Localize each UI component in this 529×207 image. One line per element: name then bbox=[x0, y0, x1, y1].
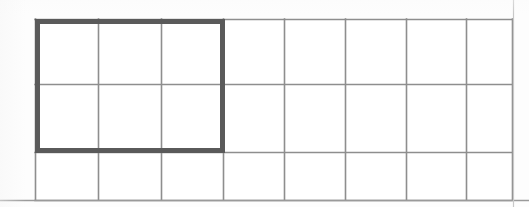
grid-cell-r2-c8 bbox=[466, 84, 512, 152]
grid-cells bbox=[35, 19, 512, 200]
grid-diagram-canvas bbox=[0, 0, 529, 207]
grid-cell-r1-c1 bbox=[35, 19, 98, 84]
grid-cell-r2-c3 bbox=[161, 84, 223, 152]
grid-figure: Rectangular grid with shaded-outline reg… bbox=[0, 0, 529, 207]
grid-cell-r2-c1 bbox=[35, 84, 98, 152]
grid-cell-r1-c6 bbox=[345, 19, 406, 84]
grid-cell-r3-c4 bbox=[223, 152, 284, 200]
grid-cell-r1-c2 bbox=[98, 19, 161, 84]
grid-cell-r3-c2 bbox=[98, 152, 161, 200]
grid-cell-r1-c7 bbox=[406, 19, 466, 84]
grid-cell-r2-c2 bbox=[98, 84, 161, 152]
grid-cell-r2-c5 bbox=[284, 84, 345, 152]
grid-cell-r3-c3 bbox=[161, 152, 223, 200]
grid-cell-r2-c4 bbox=[223, 84, 284, 152]
grid-cell-r3-c6 bbox=[345, 152, 406, 200]
grid-cell-r3-c8 bbox=[466, 152, 512, 200]
grid-cell-r1-c3 bbox=[161, 19, 223, 84]
grid-cell-r3-c5 bbox=[284, 152, 345, 200]
grid-cell-r1-c5 bbox=[284, 19, 345, 84]
grid-cell-r3-c1 bbox=[35, 152, 98, 200]
grid-cell-r1-c4 bbox=[223, 19, 284, 84]
grid-cell-r1-c8 bbox=[466, 19, 512, 84]
grid-cell-r3-c7 bbox=[406, 152, 466, 200]
grid-cell-r2-c6 bbox=[345, 84, 406, 152]
grid-cell-r2-c7 bbox=[406, 84, 466, 152]
